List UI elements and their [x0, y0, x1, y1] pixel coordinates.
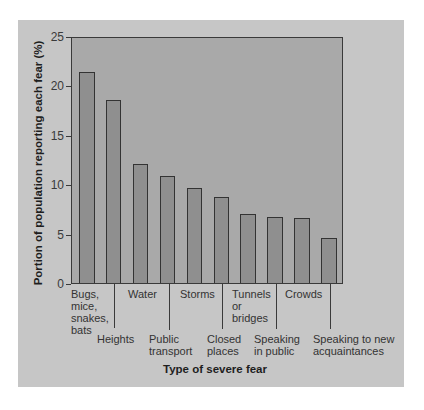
x-label-public-transport: Public transport [149, 333, 192, 357]
leader-line-heights [114, 284, 115, 328]
bar-8 [294, 218, 310, 283]
leader-line-public-transport [169, 284, 170, 330]
y-tick-label-15: 15 [40, 130, 64, 142]
x-label-tunnels: Tunnels or bridges [232, 288, 271, 324]
leader-line-closed-places [222, 284, 223, 329]
bar-2 [133, 164, 149, 283]
plot-area [71, 37, 343, 284]
bar-7 [267, 217, 283, 283]
bar-4 [187, 188, 203, 283]
x-label-closed-places: Closed places [207, 333, 241, 357]
bar-9 [321, 238, 337, 283]
x-label-storms: Storms [180, 288, 215, 300]
leader-line-speaking-in-public [276, 284, 277, 329]
leader-line-speaking-to-new [330, 284, 331, 329]
x-label-water: Water [128, 288, 157, 300]
bar-3 [160, 176, 176, 283]
x-label-speaking-in-public: Speaking in public [254, 333, 300, 357]
bar-6 [240, 214, 256, 283]
y-tick-label-0: 0 [40, 278, 64, 290]
x-label-heights: Heights [97, 333, 134, 345]
y-tick-label-20: 20 [40, 80, 64, 92]
bar-0 [79, 72, 95, 283]
x-axis-title: Type of severe fear [163, 363, 267, 375]
bar-5 [214, 197, 230, 283]
y-tick-label-10: 10 [40, 179, 64, 191]
x-label-bugs: Bugs, mice, snakes, bats [71, 288, 109, 336]
y-axis-title: Portion of population reporting each fea… [32, 41, 44, 286]
y-tick-label-5: 5 [40, 229, 64, 241]
y-tick-label-25: 25 [40, 31, 64, 43]
bar-1 [106, 100, 122, 283]
y-tick-0 [66, 284, 71, 285]
x-label-crowds: Crowds [285, 288, 322, 300]
x-label-speaking-to-new: Speaking to new acquaintances [313, 333, 394, 357]
